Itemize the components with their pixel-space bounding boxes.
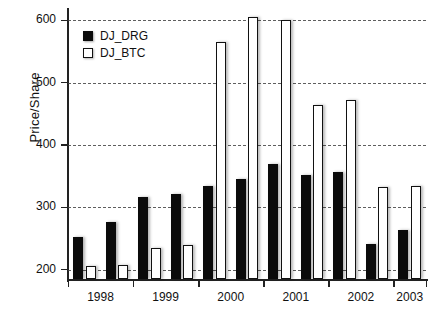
legend-label-drg: DJ_DRG <box>100 29 148 43</box>
x-axis-label-2000: 2000 <box>201 290 261 304</box>
legend: DJ_DRG DJ_BTC <box>83 28 148 62</box>
y-tick-label-300: 300 <box>10 199 56 213</box>
legend-label-btc: DJ_BTC <box>100 46 145 60</box>
x-tick-1998 <box>68 280 69 287</box>
bar-dj_btc-1999-H2[interactable] <box>183 245 193 279</box>
gridline-500 <box>68 83 426 84</box>
y-axis-label: Price/Share <box>27 38 42 178</box>
legend-item-btc[interactable]: DJ_BTC <box>83 45 148 60</box>
x-axis-label-1998: 1998 <box>71 290 131 304</box>
gridline-300 <box>68 207 426 208</box>
bar-dj_drg-1999-H2[interactable] <box>171 194 181 279</box>
bar-dj_btc-2000-H1[interactable] <box>216 42 226 279</box>
x-tick-2001 <box>263 280 264 287</box>
bar-dj_btc-2001-H1[interactable] <box>281 20 291 279</box>
x-tick-2002 <box>328 280 329 287</box>
legend-item-drg[interactable]: DJ_DRG <box>83 28 148 43</box>
bar-dj_drg-1998-H2[interactable] <box>106 222 116 279</box>
bar-dj_drg-2002-H2[interactable] <box>366 244 376 279</box>
y-tick-label-500: 500 <box>10 75 56 89</box>
y-tick-label-400: 400 <box>10 137 56 151</box>
bar-dj_drg-2000-H1[interactable] <box>203 186 213 279</box>
bar-dj_drg-1998-H1[interactable] <box>73 237 83 279</box>
bar-dj_drg-2000-H2[interactable] <box>236 179 246 279</box>
x-axis-line <box>68 279 428 281</box>
bar-dj_drg-2001-H2[interactable] <box>301 175 311 279</box>
bar-dj_drg-2002-H1[interactable] <box>333 172 343 279</box>
legend-swatch-drg-icon <box>83 31 93 41</box>
bar-dj_btc-2002-H2[interactable] <box>378 187 388 279</box>
y-tick-label-600: 600 <box>10 12 56 26</box>
y-tick-label-200: 200 <box>10 262 56 276</box>
bar-dj_btc-2003-H1[interactable] <box>411 186 421 279</box>
x-axis-label-1999: 1999 <box>136 290 196 304</box>
bar-chart: Price/Share 200300400500600 199819992000… <box>0 0 434 322</box>
bar-dj_btc-2002-H1[interactable] <box>346 100 356 279</box>
x-tick-1999 <box>133 280 134 287</box>
legend-swatch-btc-icon <box>83 48 93 58</box>
bar-dj_drg-1999-H1[interactable] <box>138 197 148 279</box>
bar-dj_drg-2003-H1[interactable] <box>398 230 408 279</box>
bar-dj_btc-1998-H1[interactable] <box>86 266 96 279</box>
gridline-600 <box>68 20 426 21</box>
bar-dj_btc-1999-H1[interactable] <box>151 248 161 279</box>
bar-dj_btc-2001-H2[interactable] <box>313 105 323 280</box>
bar-dj_drg-2001-H1[interactable] <box>268 164 278 279</box>
x-axis-label-2003: 2003 <box>380 290 434 304</box>
bar-dj_btc-1998-H2[interactable] <box>118 265 128 279</box>
bar-dj_btc-2000-H2[interactable] <box>248 17 258 279</box>
gridline-400 <box>68 145 426 146</box>
x-tick-2003 <box>393 280 394 287</box>
x-axis-label-2001: 2001 <box>266 290 326 304</box>
x-tick-2000 <box>198 280 199 287</box>
x-tick-end <box>426 280 427 287</box>
